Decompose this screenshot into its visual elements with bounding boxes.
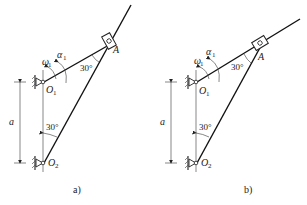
mechanism-diagram: a A O 1 O <box>0 0 307 205</box>
slider-block <box>252 36 269 51</box>
svg-text:1: 1 <box>53 89 57 97</box>
svg-text:1: 1 <box>200 60 204 68</box>
distance-label: a <box>9 116 14 127</box>
svg-text:1: 1 <box>212 51 216 59</box>
angle-arc-a <box>244 54 251 63</box>
svg-text:2: 2 <box>55 162 59 170</box>
svg-text:1: 1 <box>48 61 52 69</box>
point-a-label: A <box>112 44 120 55</box>
angle-a-label: 30° <box>231 62 244 72</box>
distance-label: a <box>160 116 165 127</box>
angle-a-label: 30° <box>80 63 93 73</box>
caption-b: b) <box>244 184 252 196</box>
panel-b: a A O 1 O 2 <box>160 19 300 196</box>
svg-text:2: 2 <box>208 162 212 170</box>
angle-arc-a <box>92 55 99 62</box>
angle-o2-label: 30° <box>199 122 212 132</box>
dimension-a: a <box>160 82 177 163</box>
angle-arc-o2 <box>43 133 57 137</box>
panel-a: a A O 1 O <box>9 5 131 196</box>
caption-a: a) <box>73 184 81 196</box>
svg-text:1: 1 <box>206 90 210 98</box>
alpha-arc <box>58 62 66 83</box>
point-a-label: A <box>257 51 265 62</box>
guide-link-o2 <box>44 5 131 163</box>
dimension-a: a <box>9 82 26 163</box>
angle-arc-o2 <box>196 133 209 137</box>
angle-o2-label: 30° <box>46 122 59 132</box>
svg-text:1: 1 <box>63 54 67 62</box>
